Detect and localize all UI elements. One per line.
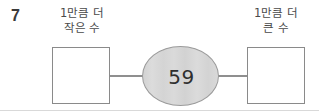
center-number-value: 59 — [168, 65, 194, 89]
problem-number: 7 — [11, 7, 20, 25]
connector-line-left — [110, 75, 146, 77]
label-smaller-number-line2: 작은 수 — [42, 21, 122, 36]
label-smaller-number: 1만큼 더 작은 수 — [42, 6, 122, 36]
label-greater-number-line1: 1만큼 더 — [236, 6, 316, 21]
worksheet-problem: 7 1만큼 더 작은 수 1만큼 더 큰 수 59 — [0, 0, 319, 112]
label-greater-number-line2: 큰 수 — [236, 21, 316, 36]
center-number-ellipse: 59 — [142, 46, 219, 106]
label-smaller-number-line1: 1만큼 더 — [42, 6, 122, 21]
label-greater-number: 1만큼 더 큰 수 — [236, 6, 316, 36]
answer-box-smaller[interactable] — [52, 47, 110, 104]
connector-line-right — [214, 75, 248, 77]
answer-box-greater[interactable] — [247, 47, 305, 104]
bottom-divider — [0, 110, 319, 111]
